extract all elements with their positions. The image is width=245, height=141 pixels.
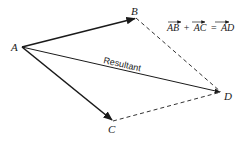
eq-plus: + <box>184 22 190 33</box>
eq-result: AD <box>220 22 235 33</box>
vector-ac <box>22 47 112 120</box>
eq-term2: AC <box>193 22 207 33</box>
vector-diagram: A B C D Resultant AB + AC = AD <box>0 0 245 141</box>
label-a: A <box>10 41 18 53</box>
vector-ab <box>22 19 135 48</box>
dashed-edge-c-d <box>113 92 221 121</box>
svg-text:AB + AC =: AB + AC = AD <box>166 22 235 33</box>
resultant-label: Resultant <box>103 55 143 73</box>
eq-term1: AB <box>166 22 179 33</box>
label-d: D <box>223 90 232 102</box>
label-c: C <box>108 123 116 135</box>
vector-equation: AB + AC = AD <box>166 22 235 33</box>
eq-equals: = <box>211 22 217 33</box>
vector-ad-resultant <box>22 47 220 92</box>
label-b: B <box>131 5 138 17</box>
